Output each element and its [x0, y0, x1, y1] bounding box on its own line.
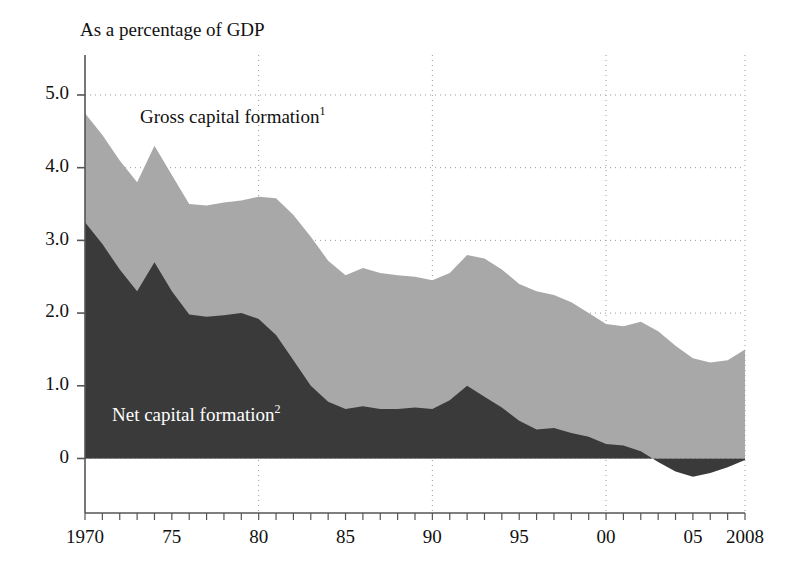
- y-tick-label: 3.0: [45, 228, 69, 249]
- x-tick-label: 05: [683, 526, 702, 547]
- x-tick-label: 75: [162, 526, 181, 547]
- x-tick-label: 1970: [66, 526, 104, 547]
- area-chart: 01.02.03.04.05.0 1970758085909500052008 …: [0, 0, 808, 573]
- chart-figure: 01.02.03.04.05.0 1970758085909500052008 …: [0, 0, 808, 573]
- y-tick-label: 5.0: [45, 82, 69, 103]
- y-tick-label: 4.0: [45, 155, 69, 176]
- series-label-gross-capital-formation: Gross capital formation1: [140, 104, 325, 128]
- y-tick-label: 2.0: [45, 300, 69, 321]
- x-tick-label: 95: [510, 526, 529, 547]
- x-tick-label: 80: [249, 526, 268, 547]
- x-tick-label: 00: [597, 526, 616, 547]
- y-tick-label: 1.0: [45, 373, 69, 394]
- unit-title: As a percentage of GDP: [80, 19, 265, 40]
- x-tick-label: 90: [423, 526, 442, 547]
- series-label-net-capital-formation: Net capital formation2: [112, 402, 281, 426]
- y-tick-label: 0: [60, 446, 70, 467]
- x-tick-label: 85: [336, 526, 355, 547]
- x-tick-label: 2008: [726, 526, 764, 547]
